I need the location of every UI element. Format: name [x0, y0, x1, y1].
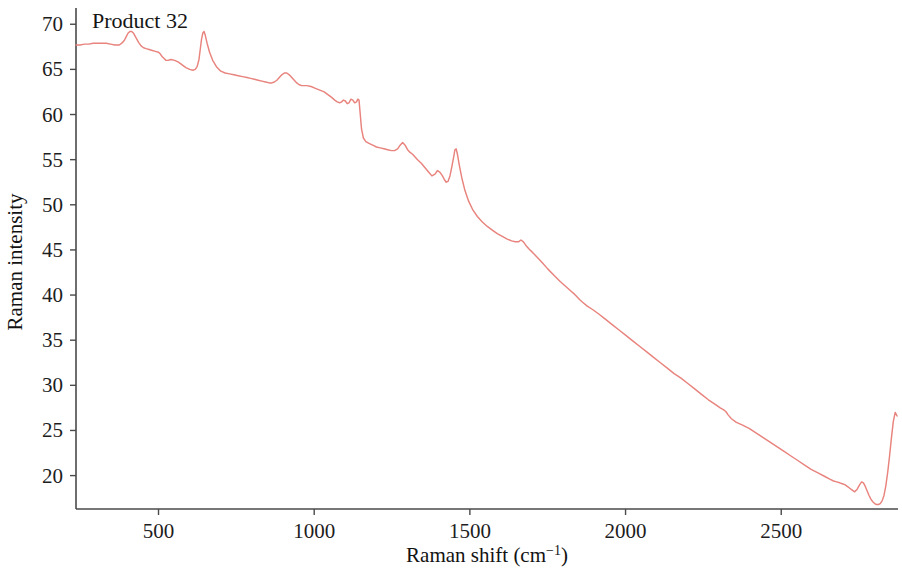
y-tick-label: 25: [42, 418, 63, 442]
x-tick-label: 2500: [760, 519, 802, 543]
axes-group: [76, 8, 898, 509]
y-tick-label: 60: [42, 103, 63, 127]
x-tick-label: 2000: [605, 519, 647, 543]
tick-marks-group: [70, 24, 781, 515]
x-tick-label: 1000: [293, 519, 335, 543]
spectrum-line-product-32: [76, 31, 897, 504]
y-tick-label: 50: [42, 193, 63, 217]
x-tick-label: 1500: [449, 519, 491, 543]
raman-spectrum-figure: 2025303540455055606570 50010001500200025…: [0, 0, 902, 572]
y-tick-label: 45: [42, 238, 63, 262]
y-tick-label: 55: [42, 148, 63, 172]
y-tick-label: 65: [42, 57, 63, 81]
y-tick-label: 70: [42, 12, 63, 36]
y-tick-label: 35: [42, 328, 63, 352]
series-label-product-32: Product 32: [92, 8, 188, 33]
y-tick-label: 20: [42, 464, 63, 488]
y-tick-label: 30: [42, 373, 63, 397]
x-tick-label: 500: [143, 519, 175, 543]
y-tick-labels-group: 2025303540455055606570: [42, 12, 63, 487]
y-axis-title: Raman intensity: [3, 193, 27, 331]
x-axis-title: Raman shift (cm−1): [406, 543, 568, 567]
y-tick-label: 40: [42, 283, 63, 307]
x-axis-title-base: Raman shift (cm: [406, 543, 546, 567]
x-axis-title-superscript: −1: [546, 543, 561, 558]
x-axis-title-close-paren: ): [561, 543, 568, 567]
chart-svg: 2025303540455055606570 50010001500200025…: [0, 0, 902, 572]
x-tick-labels-group: 5001000150020002500: [143, 519, 802, 543]
